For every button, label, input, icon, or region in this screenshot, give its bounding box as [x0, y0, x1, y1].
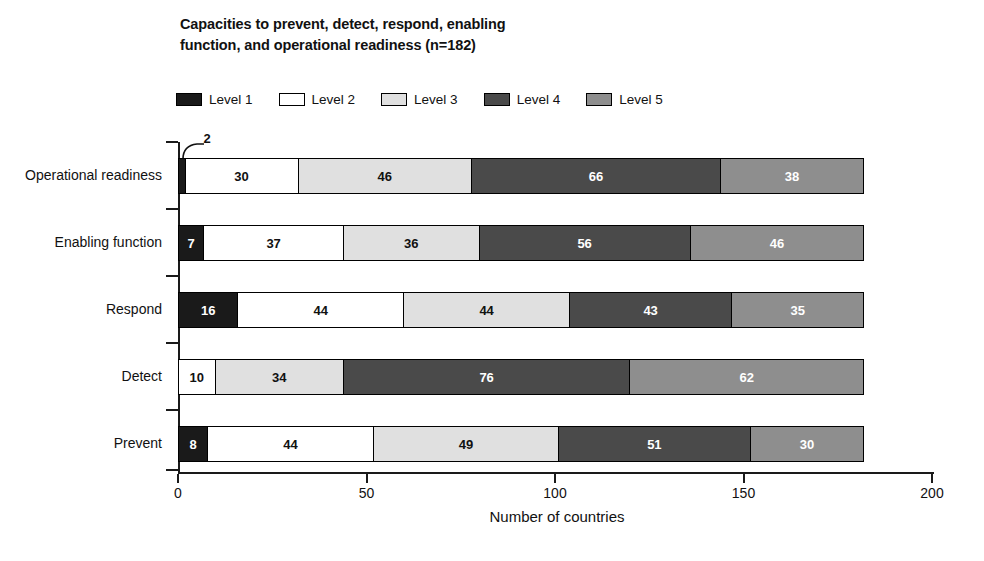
legend-swatch-level-5	[586, 93, 612, 106]
bar-segment[interactable]: 46	[299, 158, 472, 194]
bar-segment-value: 44	[479, 304, 493, 317]
legend-item-1[interactable]: Level 1	[176, 92, 253, 107]
stacked-bar: 1644444335	[178, 292, 864, 328]
y-axis-tick-0	[166, 141, 178, 143]
legend-swatch-level-3	[381, 93, 407, 106]
legend-label-level-2: Level 2	[312, 92, 356, 107]
chart-title-line-2: function, and operational readiness (n=1…	[180, 35, 650, 56]
bar-row: Prevent844495130	[0, 426, 984, 462]
bar-segment-value: 10	[190, 371, 204, 384]
bar-segment-value: 62	[740, 371, 754, 384]
y-axis-category-label: Prevent	[2, 435, 162, 451]
bar-segment-value: 44	[314, 304, 328, 317]
legend-item-5[interactable]: Level 5	[586, 92, 663, 107]
bar-row: Respond1644444335	[0, 292, 984, 328]
bar-segment-value: 30	[234, 170, 248, 183]
chart-title: Capacities to prevent, detect, respond, …	[180, 14, 650, 56]
bar-segment[interactable]: 7	[178, 225, 204, 261]
bar-segment[interactable]: 44	[208, 426, 374, 462]
bar-segment[interactable]: 36	[344, 225, 480, 261]
bar-segment-value: 44	[283, 438, 297, 451]
bar-row: Detect10347662	[0, 359, 984, 395]
bar-segment[interactable]: 37	[204, 225, 343, 261]
x-axis-title: Number of countries	[0, 508, 984, 525]
bar-row: Enabling function737365646	[0, 225, 984, 261]
chart-legend: Level 1Level 2Level 3Level 4Level 5	[176, 88, 776, 110]
bar-segment[interactable]: 51	[559, 426, 751, 462]
stacked-bar: 737365646	[178, 225, 864, 261]
stacked-bar: 844495130	[178, 426, 864, 462]
bar-segment-value: 34	[272, 371, 286, 384]
x-axis-tick-200	[931, 474, 933, 483]
legend-item-3[interactable]: Level 3	[381, 92, 458, 107]
legend-item-4[interactable]: Level 4	[484, 92, 561, 107]
y-axis-tick-5	[166, 469, 178, 471]
x-axis-tick-label-100: 100	[543, 485, 566, 501]
bar-segment[interactable]: 35	[732, 292, 864, 328]
bar-row: Operational readiness230466638	[0, 158, 984, 194]
y-axis-tick-4	[166, 409, 178, 411]
legend-label-level-3: Level 3	[414, 92, 458, 107]
bar-segment[interactable]: 30	[186, 158, 299, 194]
callout-value-text: 2	[204, 131, 211, 146]
legend-label-level-4: Level 4	[517, 92, 561, 107]
bar-segment[interactable]: 16	[178, 292, 238, 328]
x-axis-tick-50	[366, 474, 368, 483]
y-axis-category-label: Detect	[2, 368, 162, 384]
chart-figure: Capacities to prevent, detect, respond, …	[0, 0, 984, 561]
x-axis-tick-label-0: 0	[174, 485, 182, 501]
bar-segment-value: 46	[378, 170, 392, 183]
y-axis-tick-3	[166, 342, 178, 344]
bar-segment[interactable]: 34	[216, 359, 344, 395]
stacked-bar: 10347662	[178, 359, 864, 395]
legend-item-2[interactable]: Level 2	[279, 92, 356, 107]
legend-swatch-level-1	[176, 93, 202, 106]
legend-swatch-level-2	[279, 93, 305, 106]
bar-segment-value: 30	[800, 438, 814, 451]
bar-segment-value: 8	[189, 438, 196, 451]
bar-segment-value: 7	[188, 237, 195, 250]
bar-segment[interactable]: 10	[178, 359, 216, 395]
bar-segment[interactable]: 49	[374, 426, 559, 462]
bar-segment[interactable]: 66	[472, 158, 721, 194]
bar-segment-value: 37	[266, 237, 280, 250]
bar-segment[interactable]: 62	[630, 359, 864, 395]
x-axis-tick-label-50: 50	[359, 485, 375, 501]
bar-segment-value: 38	[785, 170, 799, 183]
bar-segment[interactable]: 44	[238, 292, 404, 328]
x-axis-tick-100	[554, 474, 556, 483]
bar-segment[interactable]: 46	[691, 225, 864, 261]
x-axis-tick-label-150: 150	[732, 485, 755, 501]
bar-segment[interactable]: 8	[178, 426, 208, 462]
x-axis-tick-150	[743, 474, 745, 483]
bar-segment[interactable]: 76	[344, 359, 631, 395]
legend-label-level-1: Level 1	[209, 92, 253, 107]
bar-segment[interactable]: 30	[751, 426, 864, 462]
bar-segment-value: 49	[459, 438, 473, 451]
y-axis-category-label: Enabling function	[2, 234, 162, 250]
y-axis-category-label: Respond	[2, 301, 162, 317]
x-axis-tick-label-200: 200	[920, 485, 943, 501]
bar-segment-value: 51	[647, 438, 661, 451]
bar-segment-value: 66	[589, 170, 603, 183]
bar-segment[interactable]: 43	[570, 292, 732, 328]
y-axis-tick-1	[166, 208, 178, 210]
bar-segment-value: 56	[577, 237, 591, 250]
bar-segment-value: 36	[404, 237, 418, 250]
bar-segment[interactable]: 44	[404, 292, 570, 328]
chart-title-line-1: Capacities to prevent, detect, respond, …	[180, 14, 650, 35]
bar-segment-value: 43	[643, 304, 657, 317]
bar-segment-value: 35	[790, 304, 804, 317]
bar-segment-value: 46	[770, 237, 784, 250]
stacked-bar: 230466638	[178, 158, 864, 194]
x-axis-tick-0	[177, 474, 179, 483]
bar-segment[interactable]: 56	[480, 225, 691, 261]
x-axis-line	[178, 472, 934, 474]
legend-label-level-5: Level 5	[619, 92, 663, 107]
plot-area: 050100150200 2Operational readiness23046…	[0, 128, 984, 473]
x-axis-title-text: Number of countries	[489, 508, 624, 525]
bar-segment[interactable]: 38	[721, 158, 864, 194]
legend-swatch-level-4	[484, 93, 510, 106]
bar-segment[interactable]: 2	[178, 158, 186, 194]
bar-segment-value: 76	[479, 371, 493, 384]
